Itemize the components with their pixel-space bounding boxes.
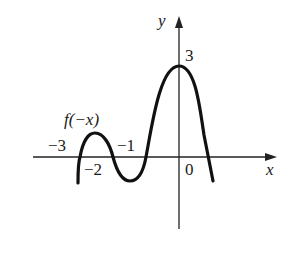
y-axis-label: y <box>156 11 166 30</box>
function-graph: y 3 f(−x) −3 −1 −2 0 x <box>0 0 292 263</box>
graph-svg: y 3 f(−x) −3 −1 −2 0 x <box>0 0 292 263</box>
tick-label-neg3: −3 <box>48 136 66 155</box>
origin-label: 0 <box>185 160 194 179</box>
y-axis-arrow-icon <box>175 16 183 28</box>
y-max-label: 3 <box>185 46 194 65</box>
curve-label: f(−x) <box>64 110 99 129</box>
x-axis-label: x <box>265 160 274 179</box>
tick-label-neg2: −2 <box>84 160 102 179</box>
tick-label-neg1: −1 <box>117 136 135 155</box>
